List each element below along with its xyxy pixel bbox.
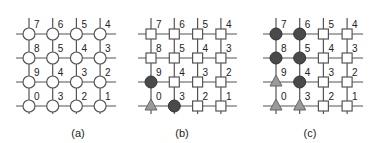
node-label: 3 <box>226 43 232 54</box>
node-label: 8 <box>281 43 287 54</box>
open-square-node <box>146 29 156 39</box>
open-square-node <box>216 53 226 63</box>
open-square-node <box>342 77 352 87</box>
panel-c: 7654854394320321(c) <box>263 18 363 139</box>
node-label: 7 <box>281 19 287 30</box>
node-label: 4 <box>179 67 185 78</box>
open-square-node <box>342 53 352 63</box>
open-square-node <box>318 101 328 111</box>
node-label: 4 <box>305 67 311 78</box>
node-label: 8 <box>34 43 40 54</box>
open-square-node <box>169 53 179 63</box>
node-label: 5 <box>81 19 87 30</box>
node-label: 4 <box>328 43 334 54</box>
node-label: 6 <box>305 19 311 30</box>
node-label: 5 <box>58 43 64 54</box>
node-label: 4 <box>81 43 87 54</box>
open-square-node <box>193 77 203 87</box>
open-square-node <box>216 29 226 39</box>
open-square-node <box>342 29 352 39</box>
node-label: 3 <box>203 67 209 78</box>
node-label: 5 <box>203 19 209 30</box>
node-label: 6 <box>58 19 64 30</box>
open-square-node <box>216 77 226 87</box>
node-label: 0 <box>156 91 162 102</box>
node-label: 3 <box>328 67 334 78</box>
node-label: 4 <box>226 19 232 30</box>
node-label: 3 <box>305 91 311 102</box>
node-label: 7 <box>156 19 162 30</box>
node-label: 3 <box>81 67 87 78</box>
node-label: 2 <box>352 67 358 78</box>
node-label: 2 <box>226 67 232 78</box>
node-label: 5 <box>179 43 185 54</box>
node-label: 1 <box>352 91 358 102</box>
open-square-node <box>169 29 179 39</box>
node-label: 0 <box>281 91 287 102</box>
node-label: 4 <box>105 19 111 30</box>
panel-b: 7654854394320321(b) <box>138 18 237 139</box>
node-label: 0 <box>34 91 40 102</box>
node-label: 7 <box>34 19 40 30</box>
node-label: 1 <box>226 91 232 102</box>
open-square-node <box>318 77 328 87</box>
node-label: 3 <box>352 43 358 54</box>
node-label: 3 <box>105 43 111 54</box>
node-label: 5 <box>328 19 334 30</box>
node-label: 2 <box>328 91 334 102</box>
node-label: 9 <box>281 67 287 78</box>
node-label: 3 <box>179 91 185 102</box>
node-label: 5 <box>305 43 311 54</box>
node-label: 3 <box>58 91 64 102</box>
mesh-diagram: 7654854394320321(a)7654854394320321(b)76… <box>0 0 386 143</box>
panel-caption: (a) <box>71 127 84 139</box>
open-square-node <box>193 101 203 111</box>
panel-caption: (c) <box>304 127 317 139</box>
node-label: 2 <box>105 67 111 78</box>
node-label: 9 <box>34 67 40 78</box>
open-square-node <box>146 53 156 63</box>
open-square-node <box>318 53 328 63</box>
node-label: 6 <box>179 19 185 30</box>
node-label: 8 <box>156 43 162 54</box>
open-square-node <box>193 53 203 63</box>
node-label: 1 <box>105 91 111 102</box>
node-label: 4 <box>352 19 358 30</box>
open-square-node <box>169 77 179 87</box>
open-square-node <box>318 29 328 39</box>
node-label: 2 <box>203 91 209 102</box>
node-label: 2 <box>81 91 87 102</box>
panel-a: 7654854394320321(a) <box>16 18 116 139</box>
node-label: 4 <box>203 43 209 54</box>
open-square-node <box>342 101 352 111</box>
node-label: 4 <box>58 67 64 78</box>
panel-caption: (b) <box>175 127 188 139</box>
open-square-node <box>216 101 226 111</box>
node-label: 9 <box>156 67 162 78</box>
open-square-node <box>193 29 203 39</box>
